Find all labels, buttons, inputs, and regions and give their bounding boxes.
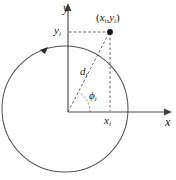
y-axis-label: y (63, 2, 68, 14)
circle-path (2, 46, 128, 172)
distance-label: di (80, 66, 87, 79)
data-point (107, 29, 113, 35)
diagram-canvas (0, 0, 176, 180)
angle-label: ϕi (89, 90, 97, 103)
y-tick-label: yi (54, 25, 61, 38)
x-axis-label: x (165, 116, 170, 128)
direction-arrow-icon (40, 47, 48, 54)
point-coordinate-label: (xi,yi) (96, 12, 120, 25)
figure-container: y x yi xi (xi,yi) di ϕi (0, 0, 176, 180)
x-tick-label: xi (104, 115, 111, 128)
